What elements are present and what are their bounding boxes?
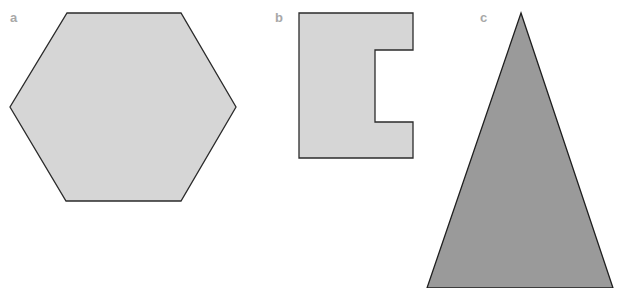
triangle-shape bbox=[427, 13, 613, 288]
notched-rectangle-shape bbox=[299, 13, 413, 158]
panel-label-c: c bbox=[480, 10, 487, 25]
panel-label-b: b bbox=[275, 10, 283, 25]
hexagon-shape bbox=[10, 13, 236, 201]
panel-label-a: a bbox=[10, 10, 17, 25]
shapes-diagram bbox=[0, 0, 617, 288]
